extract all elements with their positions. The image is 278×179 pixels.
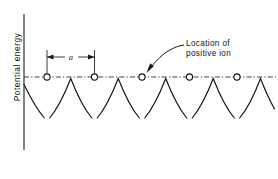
positive-ion-marker [234,74,240,80]
potential-well [50,79,92,119]
positive-ion-markers [44,74,240,80]
potential-energy-diagram: a [0,0,278,179]
positive-ion-marker [186,74,192,80]
ion-callout-line-1: Location of [186,39,230,49]
positive-ion-marker [91,74,97,80]
potential-well [24,85,44,119]
dimension-arrow-left [47,54,54,59]
potential-well [145,79,187,119]
dimension-arrow-right [88,54,95,59]
lattice-spacing-dimension: a [47,50,95,74]
ion-callout-arrow [147,45,185,73]
y-axis-label-wrapper: Potential energy [6,7,24,127]
potential-well-curves [24,79,275,119]
potential-well [240,79,275,119]
callout-arrow-curve [151,45,184,67]
positive-ion-marker [139,74,145,80]
potential-well [97,79,139,119]
y-axis-label: Potential energy [12,33,22,102]
positive-ion-marker [44,74,50,80]
figure-container: a Potential energy Location of positive … [0,0,278,179]
lattice-spacing-label: a [69,52,73,62]
ion-callout-line-2: positive ion [186,49,231,59]
potential-well [192,79,234,119]
